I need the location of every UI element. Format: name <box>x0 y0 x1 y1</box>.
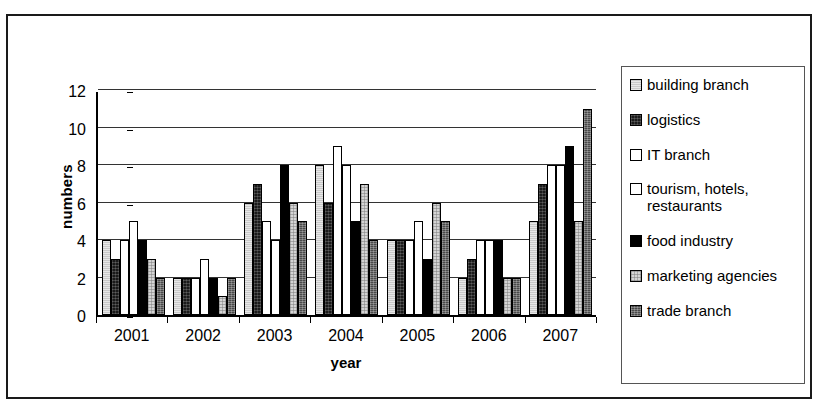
bar <box>324 203 333 316</box>
y-tick-label: 12 <box>68 83 86 101</box>
bar <box>182 278 191 316</box>
bar <box>111 259 120 315</box>
y-tick-label: 8 <box>77 158 86 176</box>
bar <box>129 221 138 315</box>
bar <box>138 240 147 315</box>
legend-swatch-icon <box>630 149 642 161</box>
bar <box>405 240 414 315</box>
x-tick: 2003 <box>239 317 310 351</box>
bar <box>538 184 547 315</box>
bar <box>387 240 396 315</box>
bar <box>512 278 521 316</box>
y-axis-tick-labels: 024681012 <box>56 92 86 317</box>
legend-item[interactable]: building branch <box>630 77 798 94</box>
bar <box>120 240 129 315</box>
bar <box>503 278 512 316</box>
bar <box>458 278 467 316</box>
x-axis-end-tick <box>596 317 597 323</box>
bar <box>494 240 503 315</box>
legend-label: trade branch <box>647 303 731 320</box>
x-tick-mark <box>167 317 168 323</box>
bar <box>253 184 262 315</box>
bar-group-2007 <box>525 92 596 315</box>
legend-item[interactable]: food industry <box>630 233 798 250</box>
x-tick-mark <box>96 317 97 323</box>
bar <box>280 165 289 315</box>
x-tick-label: 2004 <box>310 317 381 345</box>
bar-group-2005 <box>383 92 454 315</box>
legend-label: building branch <box>647 77 749 94</box>
bar <box>227 278 236 316</box>
legend-item[interactable]: IT branch <box>630 147 798 164</box>
x-tick-label: 2007 <box>525 317 596 345</box>
bar <box>547 165 556 315</box>
bar <box>342 165 351 315</box>
x-tick-mark <box>525 317 526 323</box>
x-tick: 2002 <box>167 317 238 351</box>
plot-region: numbers 024681012 2001200220032004200520… <box>20 70 610 380</box>
x-tick-label: 2002 <box>167 317 238 345</box>
bar <box>529 221 538 315</box>
y-tick-label: 2 <box>77 271 86 289</box>
legend-swatch-icon <box>630 114 642 126</box>
y-tick-label: 6 <box>77 196 86 214</box>
bar <box>414 221 423 315</box>
bar <box>271 240 280 315</box>
bar <box>102 240 111 315</box>
legend-item[interactable]: logistics <box>630 112 798 129</box>
legend-label: tourism, hotels, restaurants <box>647 181 749 215</box>
bar-group-2006 <box>454 92 525 315</box>
chart-figure: numbers 024681012 2001200220032004200520… <box>0 0 818 407</box>
legend-label: logistics <box>647 112 700 129</box>
legend-item[interactable]: marketing agencies <box>630 268 798 285</box>
bar-group-2002 <box>169 92 240 315</box>
x-tick-label: 2005 <box>382 317 453 345</box>
x-tick-mark <box>310 317 311 323</box>
bar <box>565 146 574 315</box>
bar <box>173 278 182 316</box>
plot-axes <box>96 92 596 317</box>
legend-label: IT branch <box>647 147 710 164</box>
bar <box>432 203 441 316</box>
bar <box>147 259 156 315</box>
legend-label: marketing agencies <box>647 268 777 285</box>
bar <box>396 240 405 315</box>
y-tick-label: 0 <box>77 308 86 326</box>
bar <box>209 278 218 316</box>
bar <box>191 278 200 316</box>
bar <box>289 203 298 316</box>
legend-swatch-icon <box>630 235 642 247</box>
bar <box>298 221 307 315</box>
bar <box>315 165 324 315</box>
bar <box>423 259 432 315</box>
legend-item[interactable]: trade branch <box>630 303 798 320</box>
x-tick-label: 2003 <box>239 317 310 345</box>
bar-group-2003 <box>240 92 311 315</box>
x-tick: 2006 <box>453 317 524 351</box>
x-tick: 2007 <box>525 317 596 351</box>
legend-label: food industry <box>647 233 733 250</box>
bar <box>351 221 360 315</box>
x-axis-tick-labels: 2001200220032004200520062007 <box>96 317 596 351</box>
x-tick-mark <box>382 317 383 323</box>
x-tick-mark <box>239 317 240 323</box>
bar <box>369 240 378 315</box>
bar-group-2001 <box>98 92 169 315</box>
bar <box>262 221 271 315</box>
gridline <box>98 89 596 90</box>
legend-swatch-icon <box>630 183 642 195</box>
legend-swatch-icon <box>630 79 642 91</box>
x-tick-label: 2001 <box>96 317 167 345</box>
x-tick-mark <box>453 317 454 323</box>
bar <box>556 165 565 315</box>
bar <box>218 296 227 315</box>
bar <box>476 240 485 315</box>
bar <box>467 259 476 315</box>
bar <box>583 109 592 315</box>
legend-swatch-icon <box>630 270 642 282</box>
x-tick: 2001 <box>96 317 167 351</box>
x-tick: 2004 <box>310 317 381 351</box>
bar <box>333 146 342 315</box>
bar <box>360 184 369 315</box>
legend-item[interactable]: tourism, hotels, restaurants <box>630 181 798 215</box>
